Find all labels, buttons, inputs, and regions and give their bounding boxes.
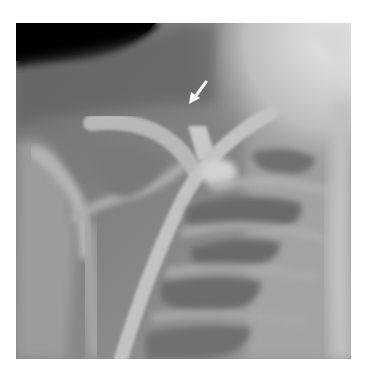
arrow-icon bbox=[187, 80, 211, 106]
radiograph-canvas bbox=[16, 23, 351, 359]
radiograph-image bbox=[16, 23, 351, 359]
